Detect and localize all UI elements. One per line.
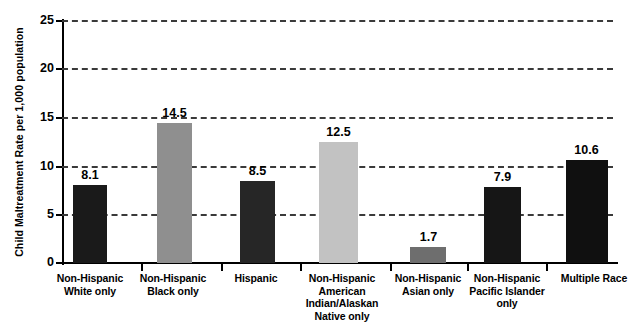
- category-label-non-hispanic-pacific-islander-only: Non-Hispanic Pacific Islander only: [459, 272, 555, 310]
- bar-value-label-3: 8.5: [229, 165, 286, 178]
- bar-value-label-2: 14.5: [146, 107, 203, 120]
- bar-non-hispanic-black-only: [157, 123, 192, 263]
- category-label-line-1: Non-Hispanic: [128, 272, 218, 285]
- y-tick-label-25: 25: [24, 14, 54, 26]
- gridline-25: [62, 20, 613, 22]
- bar-chart: Child Maltreatment Rate per 1,000 popula…: [0, 0, 638, 336]
- y-tick-label-15: 15: [24, 111, 54, 123]
- x-tick-mark-1: [141, 264, 143, 271]
- category-label-non-hispanic-white-only: Non-Hispanic White only: [45, 272, 135, 297]
- x-tick-mark-4: [390, 264, 392, 271]
- category-label-line-1: Non-Hispanic: [459, 272, 555, 285]
- y-tick-label-5: 5: [24, 208, 54, 220]
- category-label-line-1: Multiple Race: [551, 272, 637, 285]
- x-tick-mark-6: [546, 264, 548, 271]
- y-tick-label-20: 20: [24, 62, 54, 74]
- x-tick-mark-5: [467, 264, 469, 271]
- y-axis-tick-labels: 25 20 15 10 5 0: [18, 0, 54, 300]
- category-label-line-2: White only: [45, 285, 135, 298]
- category-label-non-hispanic-black-only: Non-Hispanic Black only: [128, 272, 218, 297]
- bar-non-hispanic-pacific-islander-only: [484, 187, 521, 263]
- gridline-20: [62, 68, 613, 70]
- y-tick-label-10: 10: [24, 160, 54, 172]
- x-tick-mark-3: [300, 264, 302, 271]
- bar-multiple-race: [566, 160, 608, 263]
- bar-value-label-6: 7.9: [474, 171, 531, 184]
- x-tick-mark-2: [221, 264, 223, 271]
- category-label-line-4: Native only: [294, 310, 390, 323]
- bar-non-hispanic-american-indian-alaskan-native-only: [319, 142, 358, 263]
- bar-value-label-4: 12.5: [310, 126, 367, 139]
- category-label-line-1: Hispanic: [211, 272, 301, 285]
- bar-value-label-7: 10.6: [558, 144, 615, 157]
- category-label-non-hispanic-american-indian-alaskan-native-only: Non-Hispanic American Indian/Alaskan Nat…: [294, 272, 390, 322]
- bar-non-hispanic-white-only: [73, 185, 107, 263]
- bar-value-label-1: 8.1: [62, 169, 118, 182]
- category-label-hispanic: Hispanic: [211, 272, 301, 285]
- gridline-15: [62, 117, 613, 119]
- bar-non-hispanic-asian-only: [410, 247, 446, 263]
- category-label-line-2: Black only: [128, 285, 218, 298]
- bar-value-label-5: 1.7: [400, 231, 457, 244]
- bar-hispanic: [240, 181, 275, 263]
- category-label-line-2: Pacific Islander: [459, 285, 555, 298]
- category-label-line-2: American: [294, 285, 390, 298]
- category-label-line-1: Non-Hispanic: [45, 272, 135, 285]
- category-label-line-3: only: [459, 297, 555, 310]
- plot-area: 8.1 14.5 8.5 12.5 1.7 7.9 10.6: [62, 21, 618, 263]
- category-label-multiple-race: Multiple Race: [551, 272, 637, 285]
- y-tick-label-0: 0: [24, 256, 54, 268]
- category-label-line-1: Non-Hispanic: [294, 272, 390, 285]
- category-label-line-3: Indian/Alaskan: [294, 297, 390, 310]
